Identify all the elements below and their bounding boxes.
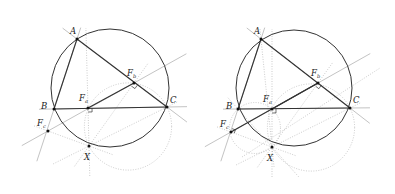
label-subscript: b [133,73,136,79]
point-fb [317,82,320,85]
point-c [166,106,169,109]
point-c [349,107,352,110]
label-x: X [83,152,91,162]
point-b [53,108,56,111]
dotted-x-c [236,103,361,165]
segment-fa-fb [272,83,318,109]
label-b: B [225,101,232,111]
simson-line-diagrams: ABCFaFbFcX ABCFaFbFcX [0,0,395,194]
simson-segment [88,83,134,108]
dotted-x-fb [74,63,148,167]
label-fc: Fc [36,118,46,129]
side-ab [238,39,261,109]
label-subscript: a [85,98,88,104]
right-angle-mark [316,85,321,88]
point-fa [271,108,274,111]
dotted-circle-xc [267,84,354,171]
circumcircle [236,30,352,146]
side-ac [77,39,167,107]
point-a [260,38,263,41]
point-b [237,108,240,111]
label-subscript: c [226,124,229,130]
right-angle-mark [132,85,138,88]
point-x [271,146,274,149]
label-fc: Fc [219,119,229,130]
point-a [76,38,79,41]
dotted-x-fb [257,63,332,168]
point-fa [87,107,90,110]
figure-left: ABCFaFbFcX [22,26,187,176]
point-fc [230,131,233,134]
label-fb: Fb [126,68,136,79]
label-fb: Fb [310,68,320,79]
label-fa: Fa [78,93,88,104]
side-bc [238,108,350,109]
side-bc [54,107,167,109]
point-fb [133,82,136,85]
figure-right: ABCFaFbFcX [205,26,380,177]
point-x [88,145,91,148]
label-subscript: b [317,73,320,79]
label-a: A [253,26,260,36]
label-b: B [40,101,47,111]
dotted-circle-xc [84,83,171,170]
label-c: C [170,95,177,105]
label-fa: Fa [262,94,272,105]
point-fc [47,130,50,133]
label-x: X [266,153,274,163]
label-subscript: c [43,123,46,129]
label-subscript: a [269,99,272,105]
circumcircle [51,29,169,147]
label-c: C [353,95,360,105]
label-a: A [69,26,76,36]
